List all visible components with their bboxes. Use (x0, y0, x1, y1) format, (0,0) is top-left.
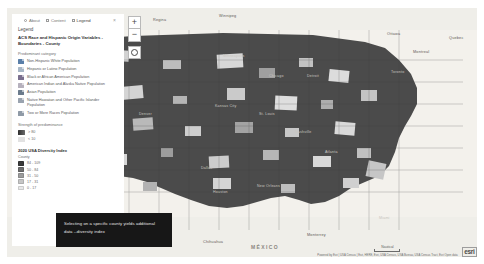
category-label: Asian Population (27, 90, 56, 95)
scale-bar (374, 249, 400, 252)
diversity-swatch-icon (18, 179, 24, 184)
strength-value: > 80 (28, 130, 35, 134)
tab-content[interactable]: Content (46, 18, 66, 23)
attribution-texts: Nautical Powered by Esri | USA Census | … (317, 245, 457, 257)
tab-about-label: About (29, 18, 40, 23)
tab-content-label: Content (51, 18, 66, 23)
strength-swatch-icon (18, 130, 25, 135)
diversity-swatch-icon (18, 186, 24, 191)
diversity-range: 17 - 31 (27, 180, 38, 184)
predominant-category-label: Predominant category (16, 51, 120, 59)
esri-logo[interactable]: esri (462, 247, 477, 257)
category-label: American Indian and Alaska Native Popula… (27, 82, 105, 87)
home-icon (131, 49, 138, 56)
category-swatch-icon (18, 90, 24, 95)
map-zoom-controls: + − (128, 16, 141, 59)
diversity-index-title: 2020 USA Diversity Index (16, 143, 120, 155)
legend-item: Two or More Races Population (16, 111, 120, 119)
diversity-range: 50 - 84 (27, 168, 38, 172)
strength-of-predominance-label: Strength of predominance (16, 118, 120, 130)
legend-panel: About Content Legend × Legend ACS Race a… (12, 14, 124, 246)
layer-title: ACS Race and Hispanic Origin Variables -… (16, 35, 120, 51)
diversity-break-item: 0 - 17 (16, 186, 120, 192)
callout-text: Selecting on a specific county yields ad… (64, 220, 164, 236)
category-swatch-icon (18, 75, 24, 80)
tab-about[interactable]: About (24, 18, 40, 23)
close-icon[interactable]: × (113, 18, 118, 23)
category-label: Black or African American Population (27, 75, 89, 80)
legend-item: Hispanic or Latino Population (16, 67, 120, 75)
category-swatch-icon (18, 98, 24, 103)
legend-item: American Indian and Alaska Native Popula… (16, 82, 120, 90)
legend-item: Black or African American Population (16, 75, 120, 83)
category-swatch-icon (18, 111, 24, 116)
map-attribution-bar: Nautical Powered by Esri | USA Census | … (317, 245, 477, 257)
layers-icon (46, 19, 49, 22)
legend-item: Asian Population (16, 90, 120, 98)
diversity-swatch-icon (18, 167, 24, 172)
category-label: Native Hawaiian and Other Pacific Island… (27, 98, 118, 108)
category-label: Non-Hispanic White Population (27, 59, 80, 64)
legend-item: Native Hawaiian and Other Pacific Island… (16, 98, 120, 111)
diversity-range: 84 - 109 (27, 161, 40, 165)
strength-item: < 10 (16, 137, 120, 144)
zoom-in-button[interactable]: + (128, 16, 141, 29)
diversity-range: 0 - 17 (27, 186, 36, 190)
diversity-swatch-icon (18, 173, 24, 178)
panel-heading: Legend (16, 26, 120, 35)
info-circle-icon (24, 19, 27, 22)
category-swatch-icon (18, 83, 24, 88)
tab-legend[interactable]: Legend (72, 18, 91, 23)
strength-item: > 80 (16, 130, 120, 137)
panel-tab-bar: About Content Legend × (16, 14, 120, 26)
legend-item: Non-Hispanic White Population (16, 59, 120, 67)
category-label: Hispanic or Latino Population (27, 67, 76, 72)
annotation-callout: Selecting on a specific county yields ad… (56, 213, 172, 247)
diversity-swatch-icon (18, 161, 24, 166)
category-label: Two or More Races Population (27, 111, 79, 116)
strength-swatch-icon (18, 137, 25, 142)
tab-legend-label: Legend (77, 18, 91, 23)
legend-icon (72, 19, 75, 22)
strength-value: < 10 (28, 137, 35, 141)
diversity-range: 31 - 50 (27, 174, 38, 178)
home-extent-button[interactable] (128, 46, 141, 59)
category-swatch-icon (18, 59, 24, 64)
scale-label: Nautical (317, 245, 457, 249)
category-swatch-icon (18, 67, 24, 72)
map-viewer-app: Calgary Regina Winnipeg Ottawa Montreal … (0, 0, 484, 264)
zoom-out-button[interactable]: − (128, 29, 141, 42)
attribution-text: Powered by Esri | USA Census | Esri, HER… (317, 253, 457, 257)
